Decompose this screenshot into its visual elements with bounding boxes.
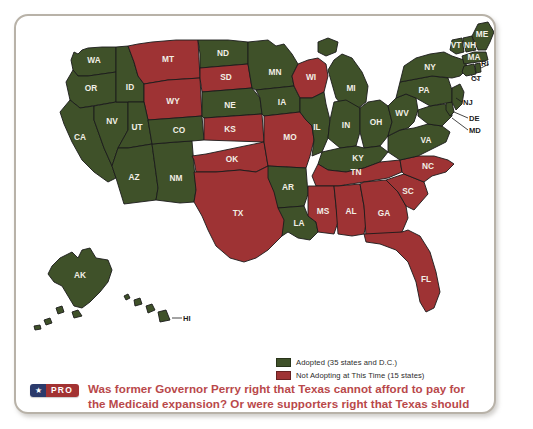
legend-item-not-adopting: Not Adopting at This Time (15 states): [276, 370, 491, 381]
pro-badge: ★ PRO: [30, 384, 79, 397]
state-label-DE: DE: [469, 114, 480, 123]
state-label-TX: TX: [233, 208, 244, 218]
leader-line-MD: [452, 118, 468, 130]
medicaid-map-card: WA OR CA NV ID MT WY UT AZ NM CO ND SD N…: [14, 14, 496, 414]
state-label-GA: GA: [378, 208, 390, 218]
state-label-SD: SD: [220, 72, 232, 82]
state-label-IL: IL: [313, 122, 320, 132]
legend-swatch-not-adopting: [276, 371, 291, 380]
state-label-SC: SC: [402, 186, 414, 196]
state-label-KS: KS: [224, 124, 236, 134]
state-label-WV: WV: [395, 108, 409, 118]
state-NM: [152, 141, 196, 203]
state-label-ND: ND: [217, 48, 229, 58]
star-icon: ★: [30, 384, 46, 397]
state-label-AR: AR: [282, 182, 294, 192]
state-label-NY: NY: [424, 62, 436, 72]
state-label-UT: UT: [131, 122, 142, 132]
state-label-MO: MO: [283, 132, 297, 142]
state-label-AZ: AZ: [128, 172, 139, 182]
state-label-NJ: NJ: [463, 98, 473, 107]
state-label-VA: VA: [421, 135, 432, 145]
state-label-AL: AL: [345, 206, 356, 216]
state-label-NE: NE: [224, 100, 236, 110]
state-label-MS: MS: [317, 206, 330, 216]
state-label-KY: KY: [352, 153, 364, 163]
state-label-IN: IN: [342, 120, 350, 130]
us-choropleth-map: WA OR CA NV ID MT WY UT AZ NM CO ND SD N…: [16, 20, 494, 350]
pro-badge-label: PRO: [46, 384, 79, 397]
state-label-MT: MT: [162, 54, 174, 64]
pro-prompt-block: ★ PRO Was former Governor Perry right th…: [30, 382, 485, 414]
state-label-NH: NH: [464, 40, 476, 50]
state-label-WI: WI: [306, 72, 316, 82]
state-label-NV: NV: [106, 116, 118, 126]
state-AK: [34, 248, 112, 330]
us-map-figure: WA OR CA NV ID MT WY UT AZ NM CO ND SD N…: [16, 20, 494, 350]
legend-item-adopted: Adopted (35 states and D.C.): [276, 357, 491, 368]
legend-label-adopted: Adopted (35 states and D.C.): [296, 358, 397, 367]
state-label-AK: AK: [74, 270, 86, 280]
state-label-CA: CA: [74, 132, 86, 142]
state-label-RI: RI: [481, 59, 489, 68]
state-label-OH: OH: [370, 117, 382, 127]
legend-label-not-adopting: Not Adopting at This Time (15 states): [296, 371, 425, 380]
state-label-MD: MD: [469, 126, 481, 135]
state-label-MA: MA: [468, 52, 481, 62]
discussion-question: Was former Governor Perry right that Tex…: [88, 382, 485, 414]
state-label-WY: WY: [166, 96, 180, 106]
state-label-OR: OR: [85, 83, 97, 93]
state-MN: [248, 40, 298, 90]
state-label-TN: TN: [350, 167, 361, 177]
legend-swatch-adopted: [276, 358, 291, 367]
leader-line-DE: [454, 112, 468, 118]
state-label-CT: CT: [471, 74, 481, 83]
state-label-CO: CO: [173, 125, 186, 135]
state-label-NM: NM: [170, 173, 183, 183]
state-label-OK: OK: [226, 154, 238, 164]
state-label-IA: IA: [278, 97, 286, 107]
state-label-ME: ME: [476, 29, 489, 39]
state-label-HI: HI: [183, 314, 191, 323]
state-label-NC: NC: [422, 161, 434, 171]
state-HI: [124, 294, 170, 322]
state-label-ID: ID: [126, 82, 134, 92]
state-label-VT: VT: [451, 40, 462, 50]
map-legend: Adopted (35 states and D.C.) Not Adoptin…: [276, 357, 491, 383]
state-label-MI: MI: [346, 83, 355, 93]
state-FL: [364, 230, 440, 312]
state-label-WA: WA: [87, 55, 100, 65]
state-label-PA: PA: [419, 85, 430, 95]
state-label-LA: LA: [293, 218, 304, 228]
state-label-MN: MN: [269, 67, 282, 77]
state-label-FL: FL: [421, 274, 431, 284]
